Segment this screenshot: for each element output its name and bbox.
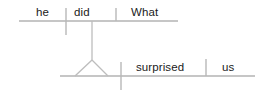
word-subordinate-subject: he [36, 6, 49, 18]
word-main-direct-object: us [222, 61, 234, 73]
tripod-left-leg [75, 60, 92, 76]
tripod-right-leg [92, 60, 108, 76]
word-main-verb: surprised [136, 61, 184, 73]
sentence-diagram: he did What surprised us [0, 0, 266, 93]
word-subordinate-verb: did [74, 6, 90, 18]
word-subordinate-direct-object: What [131, 6, 158, 18]
